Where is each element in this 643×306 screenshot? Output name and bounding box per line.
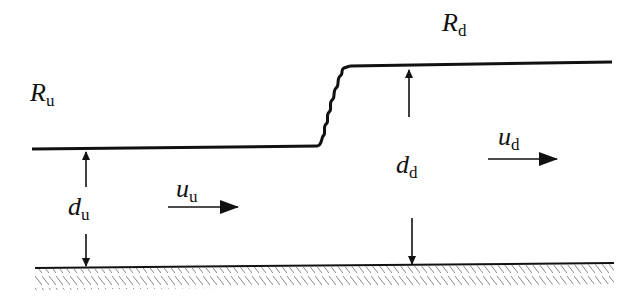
upstream-water-surface bbox=[32, 146, 318, 149]
label-r-u: Ru bbox=[30, 78, 54, 108]
label-u-d: ud bbox=[498, 122, 520, 152]
label-d-u: du bbox=[68, 192, 90, 222]
label-u-u: uu bbox=[176, 174, 198, 204]
downstream-water-surface bbox=[350, 62, 612, 66]
diagram-canvas bbox=[0, 0, 643, 306]
label-d-d: dd bbox=[396, 150, 418, 180]
bore-front bbox=[318, 66, 350, 146]
label-r-d: Rd bbox=[442, 8, 466, 38]
